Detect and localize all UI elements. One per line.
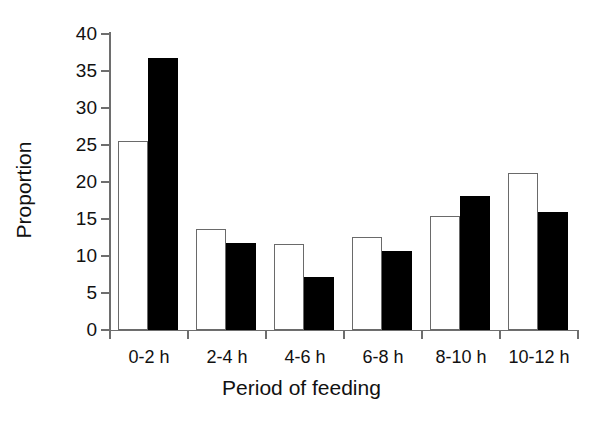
x-tick-2: [265, 330, 267, 339]
y-tick-30: [101, 107, 109, 109]
y-tick-label-5: 5: [37, 283, 97, 302]
bar-white-0-2h: [118, 141, 148, 330]
bar-black-2-4h: [226, 243, 256, 330]
x-tick-label-5: 10-12 h: [500, 347, 578, 367]
y-tick-20: [101, 181, 109, 183]
x-tick-5: [499, 330, 501, 339]
bar-white-8-10h: [430, 216, 460, 330]
y-tick-label-25: 25: [37, 135, 97, 154]
y-tick-15: [101, 218, 109, 220]
x-tick-1: [187, 330, 189, 339]
x-tick-label-2: 4-6 h: [266, 347, 344, 367]
y-axis-title: Proportion: [12, 80, 36, 300]
x-tick-label-0: 0-2 h: [110, 347, 188, 367]
y-tick-label-40: 40: [37, 24, 97, 43]
bar-white-2-4h: [196, 229, 226, 330]
x-axis-title: Period of feeding: [0, 376, 603, 400]
x-tick-3: [343, 330, 345, 339]
y-tick-label-15: 15: [37, 209, 97, 228]
y-tick-10: [101, 255, 109, 257]
y-tick-5: [101, 292, 109, 294]
bar-black-6-8h: [382, 251, 412, 330]
x-tick-label-3: 6-8 h: [344, 347, 422, 367]
bar-white-6-8h: [352, 237, 382, 330]
y-tick-25: [101, 144, 109, 146]
x-tick-label-1: 2-4 h: [188, 347, 266, 367]
bar-black-10-12h: [538, 212, 568, 330]
y-tick-label-20: 20: [37, 172, 97, 191]
bar-white-10-12h: [508, 173, 538, 330]
bar-chart-figure: 0510152025303540 0-2 h2-4 h4-6 h6-8 h8-1…: [0, 0, 603, 427]
x-tick-4: [421, 330, 423, 339]
x-tick-label-4: 8-10 h: [422, 347, 500, 367]
y-tick-0: [101, 329, 109, 331]
y-tick-label-35: 35: [37, 61, 97, 80]
y-tick-40: [101, 33, 109, 35]
y-tick-label-30: 30: [37, 98, 97, 117]
y-tick-35: [101, 70, 109, 72]
bar-black-0-2h: [148, 58, 178, 330]
x-tick-end: [577, 330, 579, 339]
bar-black-8-10h: [460, 196, 490, 330]
x-tick-0: [109, 330, 111, 339]
y-tick-label-0: 0: [37, 320, 97, 339]
plot-area: [110, 34, 578, 330]
y-axis-tick-labels: 0510152025303540: [33, 0, 97, 427]
bar-black-4-6h: [304, 277, 334, 330]
bar-white-4-6h: [274, 244, 304, 330]
y-tick-label-10: 10: [37, 246, 97, 265]
